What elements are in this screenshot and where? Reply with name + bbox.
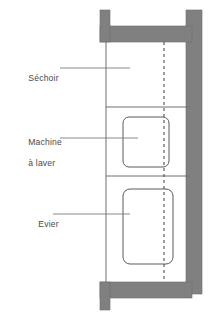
top-horizontal-wall bbox=[100, 26, 192, 42]
label-sechoir: Séchoir bbox=[18, 63, 59, 94]
label-evier: Evier bbox=[28, 209, 59, 240]
label-machine-a-laver: Machine à laver bbox=[18, 127, 62, 179]
right-exterior-wall bbox=[186, 10, 202, 294]
label-evier-line-1: Evier bbox=[38, 219, 58, 229]
appliance-outlines bbox=[123, 117, 173, 264]
label-machine-a-laver-line-1: Machine bbox=[28, 137, 62, 147]
label-sechoir-line-1: Séchoir bbox=[28, 73, 58, 83]
bottom-left-wall-stub bbox=[100, 282, 110, 310]
bottom-horizontal-wall bbox=[100, 282, 192, 298]
machine-a-laver-outline bbox=[123, 117, 169, 167]
evier-outline bbox=[123, 189, 173, 264]
top-left-wall-stub bbox=[100, 10, 110, 42]
label-machine-a-laver-line-2: à laver bbox=[28, 158, 55, 168]
floor-plan-diagram: Séchoir Machine à laver Evier bbox=[0, 0, 213, 320]
